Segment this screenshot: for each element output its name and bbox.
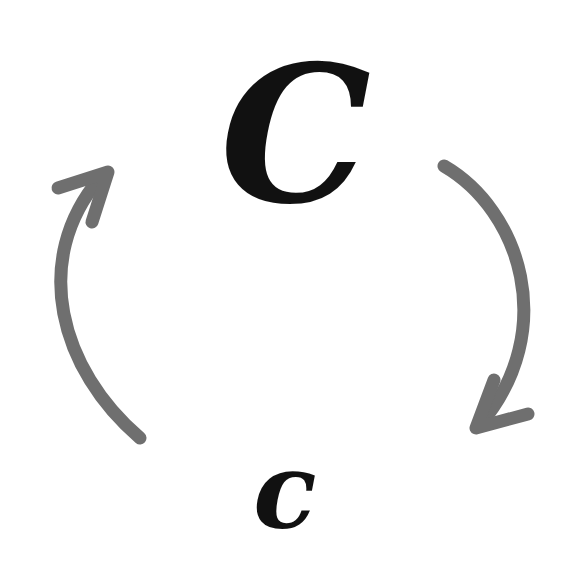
left-arrow-up-icon bbox=[58, 172, 140, 438]
arrows-layer bbox=[0, 0, 564, 569]
right-arrow-down-icon bbox=[444, 166, 528, 428]
